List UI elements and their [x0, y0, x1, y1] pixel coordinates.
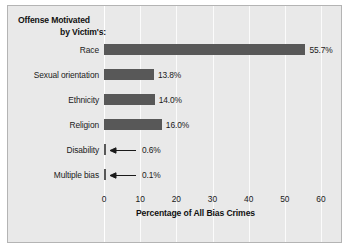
bar-sexual-orientation [104, 69, 154, 80]
value-label: 0.6% [142, 145, 161, 155]
x-tick-label: 40 [237, 194, 261, 204]
leader-arrow-icon [110, 146, 142, 155]
bar-ethnicity [104, 94, 155, 105]
category-label: Sexual orientation [8, 70, 99, 80]
category-label: Disability [8, 145, 99, 155]
x-tick-label: 0 [92, 194, 116, 204]
value-label: 13.8% [158, 70, 181, 80]
gridline-50 [285, 6, 286, 242]
gridline-60 [321, 6, 322, 242]
bar-religion [104, 119, 162, 130]
value-label: 16.0% [166, 120, 189, 130]
value-label: 14.0% [159, 95, 182, 105]
x-axis-title: Percentage of All Bias Crimes [8, 208, 343, 218]
leader-arrow-icon [110, 171, 142, 180]
category-label: Race [8, 45, 99, 55]
value-label: 55.7% [309, 45, 332, 55]
category-label: Ethnicity [8, 95, 99, 105]
bar-race [104, 44, 305, 55]
bar-disability [104, 144, 106, 155]
chart-title-line-1: Offense Motivated [18, 15, 106, 27]
category-label: Religion [8, 120, 99, 130]
bias-crimes-bar-chart: Offense Motivated by Victim's: Race55.7%… [0, 0, 350, 251]
chart-title-line-2: by Victim's: [18, 27, 106, 39]
chart-title: Offense Motivated by Victim's: [18, 15, 106, 38]
category-label: Multiple bias [8, 170, 99, 180]
bar-multiple-bias [104, 169, 106, 180]
x-tick-label: 50 [273, 194, 297, 204]
value-label: 0.1% [142, 170, 161, 180]
chart-panel: Offense Motivated by Victim's: Race55.7%… [7, 5, 342, 243]
x-tick-label: 20 [164, 194, 188, 204]
x-tick-label: 60 [309, 194, 333, 204]
gridline-30 [213, 6, 214, 242]
x-tick-label: 30 [201, 194, 225, 204]
gridline-40 [249, 6, 250, 242]
x-tick-label: 10 [128, 194, 152, 204]
